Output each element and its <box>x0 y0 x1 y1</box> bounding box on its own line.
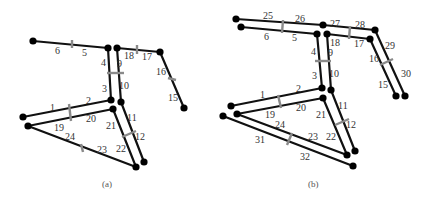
edge-label: 6 <box>264 31 269 42</box>
graph-node <box>219 112 226 119</box>
graph-node <box>180 104 187 111</box>
graph-edge <box>33 41 108 48</box>
graph-node <box>109 105 116 112</box>
edge-label: 15 <box>168 92 178 103</box>
graph-edge <box>236 19 323 25</box>
edge-label: 1 <box>260 89 265 100</box>
graph-node <box>113 44 120 51</box>
graph-node <box>401 92 408 99</box>
edge-label: 3 <box>102 83 107 94</box>
edge-label: 4 <box>311 46 316 57</box>
edge-label: 22 <box>116 143 126 154</box>
graph-node <box>24 122 31 129</box>
graph-node <box>343 151 350 158</box>
edge-label: 15 <box>378 79 388 90</box>
edge-label: 21 <box>316 109 326 120</box>
edge-label: 10 <box>329 68 339 79</box>
graph-node <box>140 158 147 165</box>
edge-label: 25 <box>263 10 273 21</box>
edge-label: 27 <box>330 18 340 29</box>
edge-split-marker <box>349 26 350 39</box>
graph-node <box>327 86 334 93</box>
edge-label: 26 <box>295 13 305 24</box>
panel-a: 651817161549310121920211124122322(a) <box>19 37 187 189</box>
graph-node <box>232 15 239 22</box>
graph-node <box>313 30 320 37</box>
edge-label: 5 <box>292 32 297 43</box>
edge-label: 11 <box>338 100 348 111</box>
edge-label: 20 <box>86 113 96 124</box>
edge-label: 11 <box>127 112 137 123</box>
graph-edge <box>241 27 317 34</box>
edge-label: 2 <box>296 83 301 94</box>
graph-node <box>371 26 378 33</box>
edge-label: 16 <box>156 66 166 77</box>
edge-label: 4 <box>101 57 106 68</box>
graph-node <box>117 98 124 105</box>
edge-label: 29 <box>385 40 395 51</box>
edge-label: 5 <box>82 47 87 58</box>
graph-node <box>351 147 358 154</box>
edge-label: 3 <box>312 70 317 81</box>
edge-label: 23 <box>97 144 107 155</box>
graph-node <box>233 110 240 117</box>
edge-label: 21 <box>106 120 116 131</box>
edge-label: 28 <box>355 19 365 30</box>
graph-node <box>392 92 399 99</box>
panel-caption: (a) <box>102 179 112 189</box>
graph-node <box>227 102 234 109</box>
graph-edge <box>231 88 322 106</box>
edge-label: 20 <box>296 102 306 113</box>
graph-edge <box>23 100 111 117</box>
edge-label: 9 <box>117 58 122 69</box>
edge-label: 19 <box>265 109 275 120</box>
edge-label: 1 <box>50 102 55 113</box>
graph-node <box>132 163 139 170</box>
edge-label: 17 <box>142 51 152 62</box>
edge-label: 23 <box>308 131 318 142</box>
graph-node <box>19 113 26 120</box>
graph-node <box>318 84 325 91</box>
edge-label: 24 <box>275 119 285 130</box>
edge-label: 16 <box>369 53 379 64</box>
edge-split-marker <box>168 78 176 80</box>
graph-node <box>349 162 356 169</box>
edge-label: 18 <box>124 50 134 61</box>
graph-node <box>366 35 373 42</box>
edge-label: 32 <box>300 151 310 162</box>
graph-node <box>107 96 114 103</box>
edge-label: 17 <box>354 38 364 49</box>
edge-label: 12 <box>346 119 356 130</box>
edge-label: 9 <box>328 47 333 58</box>
graph-edge <box>117 48 121 102</box>
graph-node <box>319 94 326 101</box>
graph-node <box>104 44 111 51</box>
panel-b: 2526272865181729163015493101219202111241… <box>219 10 411 189</box>
edge-label: 2 <box>86 95 91 106</box>
edge-label: 12 <box>135 131 145 142</box>
edge-label: 6 <box>55 45 60 56</box>
edge-label: 10 <box>119 80 129 91</box>
edge-split-marker <box>282 20 283 33</box>
edge-label: 31 <box>255 134 265 145</box>
edge-split-marker <box>81 144 83 152</box>
edge-label: 19 <box>54 122 64 133</box>
graph-node <box>237 23 244 30</box>
graph-node <box>319 21 326 28</box>
graph-node <box>29 37 36 44</box>
edge-label: 22 <box>326 131 336 142</box>
panel-caption: (b) <box>308 179 319 189</box>
graph-figure: 651817161549310121920211124122322(a) 252… <box>0 0 429 199</box>
graph-node <box>156 48 163 55</box>
edge-label: 30 <box>401 68 411 79</box>
edge-label: 24 <box>65 131 75 142</box>
